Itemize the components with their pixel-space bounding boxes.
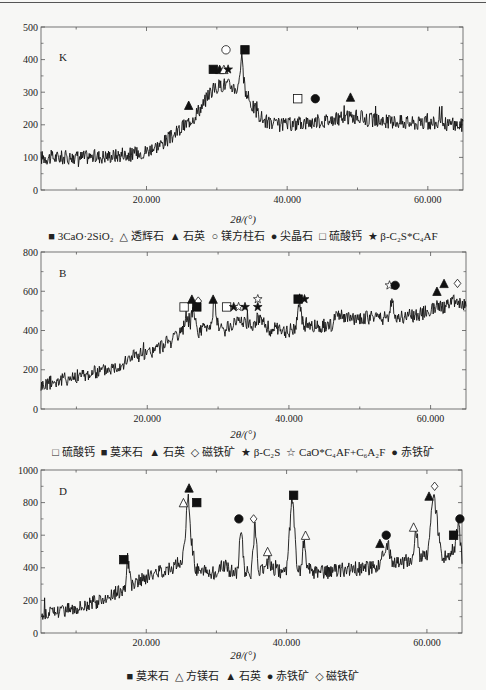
plot-frame: [41, 470, 462, 633]
xrd-trace: [41, 494, 462, 619]
open-triangle-marker-icon: [179, 498, 187, 506]
y-tick-label: 200: [23, 119, 38, 130]
legend-label: 赤铁矿: [273, 670, 309, 682]
filled-circle-marker-icon: [311, 95, 319, 103]
legend-item: △ 方镁石: [175, 670, 219, 682]
y-tick-label: 0: [33, 628, 38, 639]
filled-circle-marker-icon: [391, 281, 399, 289]
y-tick-label: 0: [33, 185, 38, 196]
chart-k-legend: ■ 3CaO·2SiO₂△ 透辉石▲ 石英○ 镁方柱石● 尖晶石□ 硫酸钙★ β…: [0, 227, 486, 243]
filled-triangle-marker-icon: [376, 539, 384, 547]
filled-triangle-marker-icon: [440, 279, 448, 287]
chart-d-plot: 0200400600800100020.00040.00060.000D: [0, 462, 486, 652]
legend-label: 尖晶石: [277, 230, 313, 242]
legend-label: 方镁石: [183, 670, 219, 682]
panel-label: K: [59, 51, 67, 63]
legend-label: CaO*C₄AF+C₆A₂F: [296, 446, 385, 458]
xrd-trace: [41, 54, 463, 167]
open-diamond-marker-icon: [431, 482, 438, 490]
legend-label: 磁铁矿: [199, 446, 235, 458]
xrd-chart-k: 010020030040050020.00040.00060.000K 2θ/(…: [0, 15, 486, 225]
y-tick-label: 800: [23, 247, 38, 258]
x-tick-label: 60.000: [413, 637, 441, 648]
plot-frame: [41, 27, 463, 190]
panel-label: D: [59, 485, 67, 497]
chart-k-x-axis-label: 2θ/(°): [0, 213, 486, 225]
legend-symbol-icon: ●: [391, 446, 398, 458]
legend-label: 磁铁矿: [324, 670, 360, 682]
legend-item: ◇ 磁铁矿: [315, 670, 359, 682]
legend-item: ● 赤铁矿: [267, 670, 309, 682]
legend-label: 石英: [236, 670, 261, 682]
chart-d-legend: ■ 莫来石△ 方镁石▲ 石英● 赤铁矿◇ 磁铁矿: [0, 667, 486, 683]
legend-item: △ 透辉石: [120, 230, 164, 242]
legend-label: 硫酸钙: [59, 446, 95, 458]
open-square-marker-icon: [294, 95, 302, 103]
legend-symbol-icon: ◇: [315, 670, 323, 682]
legend-label: 赤铁矿: [398, 446, 434, 458]
x-tick-label: 40.000: [275, 413, 303, 424]
y-tick-label: 300: [23, 87, 38, 98]
legend-label: β-C₂S: [251, 446, 280, 458]
legend-symbol-icon: ★: [241, 446, 251, 458]
filled-circle-marker-icon: [382, 531, 390, 539]
y-tick-label: 800: [23, 497, 38, 508]
plot-frame: [41, 252, 466, 409]
legend-label: 硫酸钙: [326, 230, 362, 242]
filled-star-marker-icon: [253, 302, 262, 310]
legend-item: ★ β-C₂S*C₄AF: [368, 230, 438, 242]
xrd-chart-d: 0200400600800100020.00040.00060.000D 2θ/…: [0, 462, 486, 662]
filled-circle-marker-icon: [456, 515, 464, 523]
chart-b-x-axis-label: 2θ/(°): [0, 428, 486, 440]
legend-label: 莫来石: [107, 446, 143, 458]
chart-k-plot: 010020030040050020.00040.00060.000K: [0, 15, 486, 215]
legend-symbol-icon: □: [52, 446, 59, 458]
open-diamond-marker-icon: [250, 515, 257, 523]
filled-square-marker-icon: [294, 295, 302, 303]
x-tick-label: 60.000: [417, 413, 445, 424]
legend-symbol-icon: ▲: [225, 670, 236, 682]
x-tick-label: 60.000: [414, 194, 442, 205]
legend-label: 石英: [181, 230, 206, 242]
panel-label: B: [59, 267, 66, 279]
filled-triangle-marker-icon: [185, 101, 193, 109]
open-triangle-marker-icon: [301, 531, 309, 539]
y-tick-label: 200: [23, 595, 38, 606]
x-tick-label: 20.000: [133, 194, 161, 205]
filled-triangle-marker-icon: [185, 484, 193, 492]
legend-item: ▲ 石英: [170, 230, 206, 242]
legend-symbol-icon: ☆: [286, 446, 296, 458]
filled-triangle-marker-icon: [346, 93, 354, 101]
legend-symbol-icon: □: [319, 230, 326, 242]
legend-item: ▲ 石英: [225, 670, 261, 682]
legend-symbol-icon: ▲: [170, 230, 181, 242]
y-tick-label: 600: [23, 530, 38, 541]
filled-square-marker-icon: [289, 491, 297, 499]
legend-item: ★ β-C₂S: [241, 446, 280, 458]
chart-b-plot: 020040060080020.00040.00060.000B: [0, 244, 486, 424]
open-circle-marker-icon: [222, 46, 230, 54]
open-diamond-marker-icon: [454, 279, 461, 287]
legend-item: □ 硫酸钙: [52, 446, 94, 458]
filled-square-marker-icon: [241, 46, 249, 54]
chart-d-x-axis-label: 2θ/(°): [0, 649, 486, 661]
legend-label: 透辉石: [128, 230, 164, 242]
xrd-chart-b: 020040060080020.00040.00060.000B 2θ/(°): [0, 244, 486, 434]
chart-b-legend: □ 硫酸钙■ 莫来石▲ 石英◇ 磁铁矿★ β-C₂S☆ CaO*C₄AF+C₆A…: [0, 443, 486, 459]
legend-item: ○ 镁方柱石: [211, 230, 264, 242]
y-tick-label: 400: [23, 325, 38, 336]
y-tick-label: 400: [23, 562, 38, 573]
y-tick-label: 500: [23, 22, 38, 33]
filled-square-marker-icon: [449, 531, 457, 539]
open-triangle-marker-icon: [409, 523, 417, 531]
legend-item: ▲ 石英: [149, 446, 185, 458]
open-triangle-marker-icon: [263, 547, 271, 555]
legend-symbol-icon: △: [120, 230, 128, 242]
filled-square-marker-icon: [120, 555, 128, 563]
y-tick-label: 400: [23, 54, 38, 65]
filled-square-marker-icon: [193, 498, 201, 506]
filled-triangle-marker-icon: [188, 295, 196, 303]
filled-triangle-marker-icon: [209, 295, 217, 303]
page-top-rule: [0, 2, 486, 3]
x-tick-label: 20.000: [133, 637, 161, 648]
